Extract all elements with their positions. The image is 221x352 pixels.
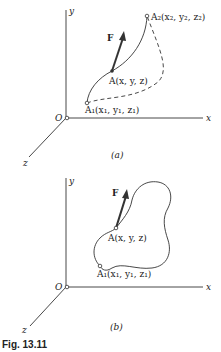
- panel-a: y x z O F A₂(x₂, y₂, z₂) A(x, y, z) A₁(x…: [22, 6, 211, 168]
- x-axis-label: x: [206, 282, 211, 292]
- z-axis-label: z: [22, 158, 28, 168]
- point-A: [110, 69, 114, 73]
- point-A1-label: A₁(x₁, y₁, z₁): [84, 105, 139, 115]
- closed-loop-path: [94, 182, 171, 270]
- x-axis-label: x: [206, 113, 211, 123]
- y-axis-label: y: [68, 176, 75, 186]
- force-arrowhead: [119, 31, 126, 41]
- z-axis: [30, 287, 66, 326]
- origin-label: O: [55, 282, 63, 292]
- panel-a-label: (a): [111, 150, 124, 160]
- origin-point: [65, 285, 69, 289]
- dashed-path: [87, 16, 163, 103]
- point-A1-label: A₁(x₁, y₁, z₁): [96, 269, 151, 279]
- point-A2: [145, 14, 149, 18]
- force-vector: [112, 38, 123, 71]
- force-label: F: [107, 33, 114, 43]
- panel-b: y x z O F A(x, y, z) A₁(x₁, y₁, z₁) (b): [21, 176, 211, 335]
- z-axis-label: z: [21, 325, 27, 335]
- point-A2-label: A₂(x₂, y₂, z₂): [150, 12, 205, 22]
- panel-b-label: (b): [110, 322, 123, 332]
- point-A: [114, 226, 118, 230]
- force-arrowhead: [122, 189, 129, 199]
- z-axis: [29, 118, 66, 157]
- point-A-label: A(x, y, z): [107, 233, 147, 243]
- force-vector: [116, 196, 126, 228]
- point-A-label: A(x, y, z): [108, 76, 148, 86]
- point-A1: [98, 264, 102, 268]
- figure-13-11: y x z O F A₂(x₂, y₂, z₂) A(x, y, z) A₁(x…: [0, 0, 221, 352]
- origin-point: [65, 116, 69, 120]
- solid-path: [87, 16, 147, 103]
- figure-caption: Fig. 13.11: [2, 339, 47, 350]
- y-axis-label: y: [68, 6, 75, 16]
- origin-label: O: [55, 113, 63, 123]
- force-label: F: [112, 188, 119, 198]
